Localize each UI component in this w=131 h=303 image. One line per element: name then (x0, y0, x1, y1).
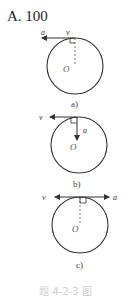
figure-b: v a O b) (39, 113, 107, 189)
figure-label-b: b) (73, 179, 81, 189)
velocity-label-b: v (39, 113, 43, 122)
figure-c: v a O c) (42, 193, 117, 270)
diagram-canvas: a v O a) v a O b) v a O c) (0, 0, 131, 303)
figure-caption: 题 4-2-3 图 (0, 283, 131, 298)
center-label-a: O (63, 64, 70, 74)
velocity-label-a: v (66, 28, 70, 37)
accel-label-a: a (41, 28, 45, 37)
accel-label-b: a (83, 126, 87, 135)
accel-label-c: a (113, 193, 117, 202)
center-label-c: O (72, 224, 79, 234)
velocity-label-c: v (42, 193, 46, 202)
figure-label-c: c) (76, 260, 83, 270)
circle-b (51, 117, 107, 173)
figure-label-a: a) (71, 99, 78, 109)
center-label-b: O (70, 142, 77, 152)
figure-a: a v O a) (41, 28, 103, 109)
